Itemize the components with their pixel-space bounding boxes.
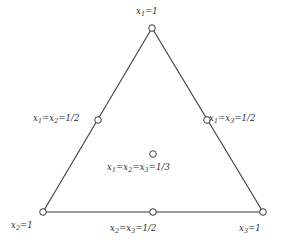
label-bottom-mid-sub1: 2 xyxy=(115,227,119,235)
label-centroid-sub3: 3 xyxy=(145,166,149,174)
label-left-midpoint: x1=x2=1/2 xyxy=(33,114,80,123)
label-bottom-left-sub1: 2 xyxy=(16,224,20,232)
label-right-mid-value: =1/2 xyxy=(234,113,255,123)
label-left-mid-sub1: 1 xyxy=(38,117,42,125)
label-apex-value: =1 xyxy=(145,6,158,16)
label-bottom-right: x3=1 xyxy=(239,224,261,233)
label-centroid: x1=x2=x3=1/3 xyxy=(107,163,170,172)
vertex-node-bottom-right xyxy=(260,209,267,216)
label-bottom-midpoint: x2=x3=1/2 xyxy=(110,224,157,233)
vertex-node-bottom-left xyxy=(40,209,47,216)
label-bottom-mid-sub2: 3 xyxy=(131,227,135,235)
label-centroid-value: =1/3 xyxy=(149,162,170,172)
label-bottom-right-sub1: 3 xyxy=(244,227,248,235)
label-apex-sub1: 1 xyxy=(141,10,145,18)
label-centroid-eq2: = xyxy=(132,162,139,172)
simplex-svg xyxy=(0,0,290,246)
label-apex: x1=1 xyxy=(136,7,158,16)
midpoint-node-left-edge xyxy=(95,117,102,124)
label-bottom-right-value: =1 xyxy=(248,223,261,233)
midpoint-node-bottom-edge xyxy=(150,209,157,216)
label-right-mid-sub2: 3 xyxy=(230,117,234,125)
label-bottom-mid-value: =1/2 xyxy=(135,223,156,233)
label-centroid-sub1: 1 xyxy=(112,166,116,174)
label-right-mid-sub1: 1 xyxy=(214,117,218,125)
label-right-midpoint: x1=x3=1/2 xyxy=(209,114,256,123)
vertex-node-apex xyxy=(149,25,156,32)
label-bottom-left: x2=1 xyxy=(11,221,33,230)
simplex-diagram: x1=1 x1=x2=1/2 x1=x3=1/2 x1=x2=x3=1/3 x2… xyxy=(0,0,290,246)
centroid-node xyxy=(150,151,157,158)
label-bottom-left-value: =1 xyxy=(20,220,33,230)
label-centroid-var3: x xyxy=(140,162,145,172)
label-left-mid-sub2: 2 xyxy=(54,117,58,125)
label-left-mid-value: =1/2 xyxy=(58,113,79,123)
label-centroid-sub2: 2 xyxy=(128,166,132,174)
